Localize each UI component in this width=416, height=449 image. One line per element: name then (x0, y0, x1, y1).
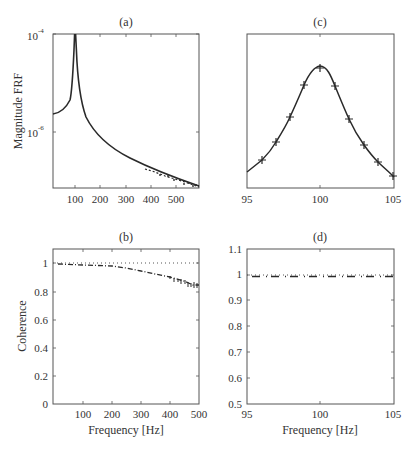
panel-b-ylabel: Coherence (15, 300, 29, 351)
xtick-label: 100 (75, 408, 92, 420)
panel-c-title: (c) (313, 15, 326, 29)
ytick-label-exp: -4 (38, 27, 44, 35)
ytick-label: 0.8 (34, 286, 48, 298)
xtick-label: 95 (242, 193, 254, 205)
panel-b-title: (b) (119, 230, 133, 244)
ytick-label-base: 10 (27, 127, 39, 139)
xtick-label: 100 (312, 408, 329, 420)
xtick-label: 105 (385, 408, 402, 420)
panel-b-xlabel: Frequency [Hz] (88, 423, 164, 437)
xtick-label: 300 (133, 408, 150, 420)
panel-a-estimate-noise (145, 169, 199, 187)
panel-b-ytick-labels: 0 0.2 0.4 0.6 0.8 1 (34, 257, 48, 410)
panel-a: (a) Magnitude FRF 10 -4 10 -6 100 200 30… (11, 15, 199, 205)
panel-b-axes-box (53, 249, 199, 404)
panel-c-axes-box (247, 34, 394, 188)
ytick-label: 0 (43, 398, 49, 410)
panel-a-frf-line (53, 34, 199, 186)
panel-b-xtick-labels: 100 200 300 400 500 (75, 408, 208, 420)
xtick-label: 200 (104, 408, 121, 420)
ytick-label: 0.9 (228, 294, 242, 306)
xtick-label: 400 (162, 408, 179, 420)
panel-d-xlabel: Frequency [Hz] (282, 423, 358, 437)
ytick-label: 0.7 (228, 346, 242, 358)
xtick-label: 400 (143, 193, 160, 205)
figure: (a) Magnitude FRF 10 -4 10 -6 100 200 30… (0, 0, 416, 449)
panel-c-frf-line (247, 66, 394, 177)
panel-c: (c) 95 100 105 (242, 15, 402, 205)
xtick-label: 100 (67, 193, 84, 205)
xtick-label: 500 (168, 193, 185, 205)
ytick-label: 0.8 (228, 320, 242, 332)
panel-d-title: (d) (313, 230, 327, 244)
xtick-label: 500 (191, 408, 208, 420)
panel-a-ytick-4: 10 -4 (27, 27, 44, 42)
ytick-label-exp: -6 (38, 124, 44, 132)
xtick-label: 200 (92, 193, 109, 205)
panel-a-axes-box (53, 34, 199, 188)
ytick-label: 0.6 (34, 314, 48, 326)
ytick-label: 0.2 (34, 370, 48, 382)
ytick-label: 1.1 (228, 243, 242, 255)
xtick-label: 105 (385, 193, 402, 205)
panel-d-xtick-labels: 95 100 105 (242, 408, 402, 420)
ytick-label: 0.4 (34, 342, 48, 354)
xtick-label: 100 (312, 193, 329, 205)
panel-a-ylabel: Magnitude FRF (11, 73, 25, 150)
panel-d-ytick-labels: 0.5 0.6 0.7 0.8 0.9 1 1.1 (228, 243, 242, 410)
panel-a-ytick-6: 10 -6 (27, 124, 44, 139)
xtick-label: 300 (118, 193, 135, 205)
panel-d-ticks (247, 249, 394, 404)
panel-a-xtick-labels: 100 200 300 400 500 (67, 193, 185, 205)
ytick-label: 0.6 (228, 372, 242, 384)
panel-d: (d) 0.5 0.6 0.7 0.8 0.9 1 1.1 95 100 105… (228, 230, 402, 437)
panel-a-title: (a) (119, 15, 132, 29)
ytick-label: 1 (43, 257, 49, 269)
panel-b-ticks (53, 249, 199, 404)
panel-b: (b) Coherence 0 0.2 0.4 0.6 0.8 1 100 20… (15, 230, 208, 437)
ytick-label-base: 10 (27, 30, 39, 42)
panel-d-axes-box (247, 249, 394, 404)
ytick-label: 1 (237, 268, 243, 280)
panel-c-plus-markers (258, 64, 397, 180)
xtick-label: 95 (242, 408, 254, 420)
panel-a-ticks (53, 34, 199, 188)
ytick-label: 0.5 (228, 398, 242, 410)
panel-c-xtick-labels: 95 100 105 (242, 193, 402, 205)
